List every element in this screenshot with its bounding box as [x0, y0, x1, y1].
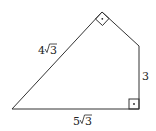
svg-text:3: 3: [85, 115, 92, 128]
svg-text:4: 4: [38, 44, 45, 57]
label-side-da: 5 3: [73, 115, 92, 128]
svg-text:5: 5: [73, 115, 80, 128]
right-angle-marker-top: [96, 12, 110, 26]
right-angle-marker-bottom-right: [129, 99, 139, 109]
label-side-cd: 3: [142, 70, 149, 83]
quadrilateral-outline: [12, 12, 139, 109]
shape: [12, 12, 139, 109]
label-side-ab: 4 3: [38, 44, 57, 57]
quadrilateral-diagram: 4 3 5 3 3: [0, 0, 156, 131]
svg-text:3: 3: [50, 44, 57, 57]
